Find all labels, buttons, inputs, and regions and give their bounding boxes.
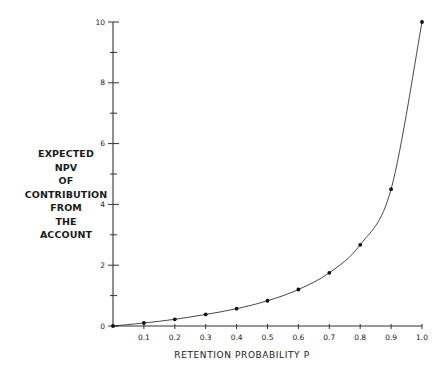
data-point [173,317,177,321]
y-tick-label: 8 [100,78,105,87]
x-tick-label: 0.1 [138,333,150,342]
x-axis-label: RETENTION PROBABILITY P [0,350,444,360]
data-point [389,187,393,191]
y-label-line: FROM [18,201,114,215]
y-label-line: EXPECTED [18,147,114,161]
x-tick-label: 0.8 [354,333,366,342]
data-curve [113,22,422,326]
data-point [358,243,362,247]
y-label-line: OF [18,174,114,188]
x-tick-label: 0.9 [385,333,397,342]
x-tick-label: 1.0 [416,333,428,342]
y-label-line: CONTRIBUTION [18,188,114,202]
x-tick-label: 0.4 [231,333,243,342]
data-point [327,271,331,275]
data-point [142,321,146,325]
y-tick-label: 2 [100,261,105,270]
y-tick-label: 10 [95,18,105,27]
x-tick-label: 0.2 [169,333,181,342]
data-point [111,324,115,328]
data-point [420,20,424,24]
y-axis-label: EXPECTED NPV OF CONTRIBUTION FROM THE AC… [18,147,114,242]
data-point [297,288,301,292]
y-label-line: THE [18,215,114,229]
axes [113,22,422,326]
x-tick-label: 0.3 [200,333,212,342]
y-label-line: NPV [18,161,114,175]
x-tick-label: 0.6 [292,333,304,342]
data-point [235,307,239,311]
data-point [266,299,270,303]
y-tick-label: 0 [100,322,105,331]
ticks: 02468100.10.20.30.40.50.60.70.80.91.0 [95,18,428,342]
data-markers [111,20,424,328]
x-tick-label: 0.5 [262,333,274,342]
data-point [204,313,208,317]
y-label-line: ACCOUNT [18,228,114,242]
x-tick-label: 0.7 [323,333,335,342]
